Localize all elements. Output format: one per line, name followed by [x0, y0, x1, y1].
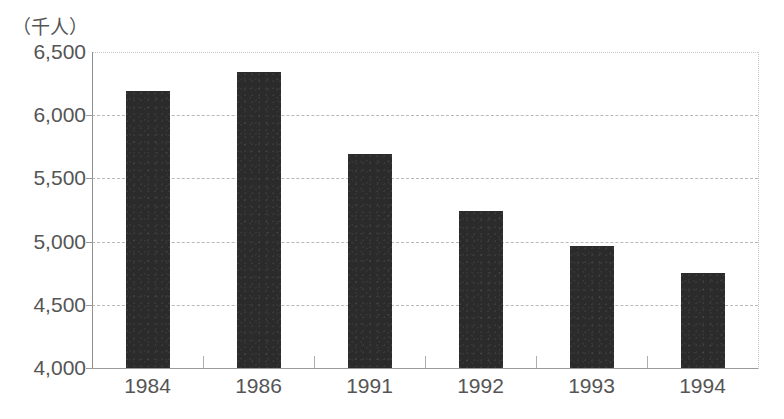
x-axis-tick-label: 1994 [679, 374, 726, 398]
x-axis-tick-label: 1992 [457, 374, 504, 398]
x-axis-tick-label: 1986 [235, 374, 282, 398]
y-axis-tick-label: 6,500 [2, 40, 86, 64]
x-axis-tick-label: 1984 [124, 374, 171, 398]
y-axis-tick-label: 6,000 [2, 103, 86, 127]
y-axis-tick-mark [86, 305, 93, 306]
y-axis-tick-mark [86, 115, 93, 116]
x-axis-tick-mark [536, 356, 537, 368]
y-axis-tick-label: 4,500 [2, 293, 86, 317]
bar [459, 211, 503, 368]
y-axis-tick-label: 4,000 [2, 356, 86, 380]
gridline-4500 [92, 305, 758, 306]
x-axis-tick-mark [425, 356, 426, 368]
plot-right-border [758, 52, 759, 369]
bar [681, 273, 725, 368]
y-axis-tick-label-group: 6,5006,0005,5005,0004,5004,000 [0, 0, 86, 419]
y-axis-tick-mark [86, 242, 93, 243]
x-axis-tick-label: 1993 [568, 374, 615, 398]
gridline-5000 [92, 242, 758, 243]
x-axis-tick-label-group: 198419861991199219931994 [92, 374, 758, 408]
x-axis-tick-mark [203, 356, 204, 368]
bar [348, 154, 392, 368]
bar-chart: （千人） 6,5006,0005,5005,0004,5004,000 1984… [0, 0, 784, 419]
y-axis-tick-mark [86, 178, 93, 179]
y-axis-line [92, 52, 93, 369]
bar [570, 246, 614, 368]
y-axis-tick-label: 5,500 [2, 166, 86, 190]
y-axis-tick-label: 5,000 [2, 230, 86, 254]
bar [126, 91, 170, 368]
gridline-6000 [92, 115, 758, 116]
gridline-5500 [92, 178, 758, 179]
gridline-4000 [92, 368, 758, 369]
gridline-6500 [92, 52, 758, 53]
bar [237, 72, 281, 368]
x-axis-tick-mark [647, 356, 648, 368]
x-axis-tick-mark [314, 356, 315, 368]
x-axis-tick-label: 1991 [346, 374, 393, 398]
plot-area [92, 52, 758, 368]
y-axis-tick-mark [86, 368, 93, 369]
